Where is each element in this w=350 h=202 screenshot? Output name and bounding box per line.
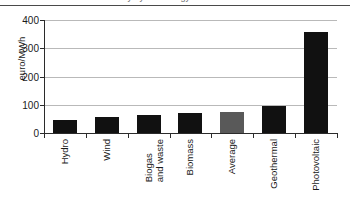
y-tick-label: 300 [22, 43, 39, 54]
figure-caption: levelised cost of electricity by technol… [28, 0, 190, 2]
x-axis-label-line: and waste [154, 139, 165, 182]
x-axis-label: Geothermal [269, 139, 280, 189]
x-axis-label: Photovoltaic [311, 139, 322, 191]
bar-slot [86, 20, 128, 133]
bar-slot [253, 20, 295, 133]
bar [53, 120, 77, 133]
x-axis-label-line: Geothermal [268, 139, 279, 189]
x-label-slot: Biogasand waste [128, 139, 170, 202]
x-axis-label-line: Biomass [184, 139, 195, 175]
x-axis-label: Wind [102, 139, 113, 161]
x-axis-label: Hydro [60, 139, 71, 164]
x-label-slot: Average [211, 139, 253, 202]
bar [95, 117, 119, 133]
header-divider [0, 5, 350, 6]
x-tick-mark [337, 133, 338, 138]
x-axis-label-line: Wind [101, 139, 112, 161]
x-label-slot: Biomass [170, 139, 212, 202]
bar-slot [170, 20, 212, 133]
x-axis-label-line: Hydro [59, 139, 70, 164]
bar [178, 113, 202, 133]
bar-series [44, 20, 337, 133]
x-axis-label: Biomass [185, 139, 196, 175]
x-label-slot: Geothermal [253, 139, 295, 202]
y-tick-label: 400 [22, 15, 39, 26]
bar-slot [128, 20, 170, 133]
plot-area: 0100200300400 [44, 20, 337, 133]
bar-chart: euro/MWh 0100200300400 HydroWindBiogasan… [0, 7, 350, 202]
x-label-slot: Photovoltaic [295, 139, 337, 202]
x-label-slot: Wind [86, 139, 128, 202]
x-axis-label: Average [227, 139, 238, 174]
x-axis-labels: HydroWindBiogasand wasteBiomassAverageGe… [44, 139, 337, 202]
bar [262, 106, 286, 133]
x-axis-label-line: Photovoltaic [310, 139, 321, 191]
x-axis-label-line: Biogas [143, 153, 154, 182]
y-tick-label: 0 [33, 128, 39, 139]
bar [220, 112, 244, 133]
x-label-slot: Hydro [44, 139, 86, 202]
bar-slot [44, 20, 86, 133]
bar [137, 115, 161, 133]
y-axis-title: euro/MWh [16, 24, 27, 94]
x-axis-line [44, 133, 337, 134]
bar-slot [295, 20, 337, 133]
y-tick-label: 200 [22, 71, 39, 82]
y-tick-label: 100 [22, 99, 39, 110]
x-axis-label-line: Average [226, 139, 237, 174]
x-axis-label: Biogasand waste [144, 139, 165, 182]
bar [304, 32, 328, 133]
bar-slot [211, 20, 253, 133]
y-axis-line [44, 20, 45, 133]
